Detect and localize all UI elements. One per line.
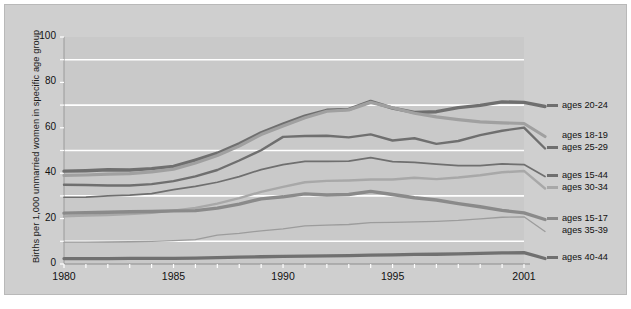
legend-label: ages 30-34 <box>562 182 608 192</box>
x-tick-label: 1980 <box>44 270 84 282</box>
x-tick-label: 1990 <box>263 270 303 282</box>
legend-label: ages 15-17 <box>562 213 608 223</box>
y-tick-label: 40 <box>30 166 56 177</box>
legend-label: ages 35-39 <box>562 225 608 235</box>
legend-item[interactable]: ages 25-29 <box>547 142 608 152</box>
y-axis-title: Births per 1,000 unmarried women in spec… <box>31 30 41 263</box>
legend-item[interactable]: ages 40-44 <box>547 252 608 262</box>
legend-item[interactable]: ages 20-24 <box>547 100 608 110</box>
y-tick-label: 60 <box>30 121 56 132</box>
legend-swatch <box>547 146 558 149</box>
y-tick-label: 0 <box>30 257 56 268</box>
x-tick-label: 2001 <box>504 270 544 282</box>
y-tick-label: 20 <box>30 212 56 223</box>
chart-figure: Births per 1,000 unmarried women in spec… <box>5 5 628 296</box>
legend-label: ages 20-24 <box>562 100 608 110</box>
legend-label: ages 15-44 <box>562 170 608 180</box>
legend-item[interactable]: ages 30-34 <box>547 182 608 192</box>
plot-area <box>5 5 628 296</box>
x-tick-label: 1985 <box>154 270 194 282</box>
legend-item[interactable]: ages 35-39 <box>547 225 608 235</box>
y-tick-label: 80 <box>30 75 56 86</box>
legend-swatch <box>547 104 558 107</box>
legend-swatch <box>547 174 558 177</box>
legend-swatch <box>547 186 558 189</box>
y-tick-label: 100 <box>30 30 56 41</box>
legend-item[interactable]: ages 15-17 <box>547 213 608 223</box>
x-tick-label: 1995 <box>373 270 413 282</box>
legend-label: ages 18-19 <box>562 130 608 140</box>
legend-item[interactable]: ages 18-19 <box>547 130 608 140</box>
legend-label: ages 40-44 <box>562 252 608 262</box>
legend-swatch <box>547 217 558 220</box>
legend-item[interactable]: ages 15-44 <box>547 170 608 180</box>
chart-card: Births per 1,000 unmarried women in spec… <box>4 4 627 295</box>
legend-label: ages 25-29 <box>562 142 608 152</box>
legend-swatch <box>547 256 558 259</box>
